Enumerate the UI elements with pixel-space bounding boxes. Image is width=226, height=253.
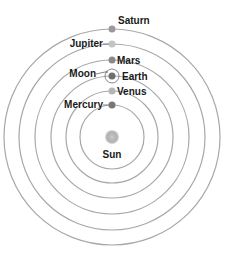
sun-label: Sun: [103, 149, 122, 160]
jupiter-label: Jupiter: [70, 38, 103, 49]
solar-system-diagram: Sun Saturn Jupiter Mars Moon Earth Venus…: [0, 0, 226, 253]
venus-label: Venus: [117, 86, 147, 97]
earth-label: Earth: [122, 71, 148, 82]
moon-label: Moon: [69, 68, 96, 79]
mars-icon: [109, 57, 116, 64]
earth-icon: [109, 73, 116, 80]
moon-icon: [105, 71, 108, 74]
saturn-label: Saturn: [118, 15, 150, 26]
mercury-label: Mercury: [64, 99, 103, 110]
moon-leader-line: [96, 72, 105, 74]
venus-icon: [109, 88, 116, 95]
sun-icon: [105, 130, 119, 144]
mercury-icon: [109, 102, 116, 109]
mars-label: Mars: [117, 55, 141, 66]
saturn-icon: [109, 26, 116, 33]
jupiter-icon: [109, 41, 116, 48]
